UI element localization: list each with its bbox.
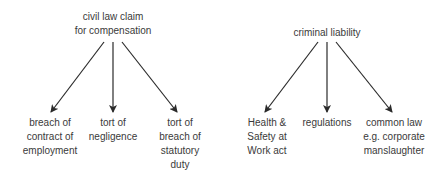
civil-child-tort-of-negligence: tort of negligence	[78, 116, 148, 144]
civil-tree-arrows	[51, 42, 177, 112]
criminal-child-regulations: regulations	[292, 116, 362, 130]
criminal-tree-arrows	[265, 42, 392, 112]
arrow-to-health-safety-act	[265, 42, 318, 112]
civil-child-tort-of-breach-of-statutory-duty: tort of breach of statutory duty	[145, 116, 215, 172]
arrow-to-common-law	[336, 42, 392, 112]
civil-root-label: civil law claim for compensation	[63, 10, 163, 38]
criminal-child-common-law: common law e.g. corporate manslaughter	[354, 116, 434, 158]
criminal-root-label: criminal liability	[277, 26, 377, 40]
arrow-to-tort-of-breach-of-statutory-duty	[122, 42, 177, 112]
arrow-to-breach-of-contract	[51, 42, 104, 112]
